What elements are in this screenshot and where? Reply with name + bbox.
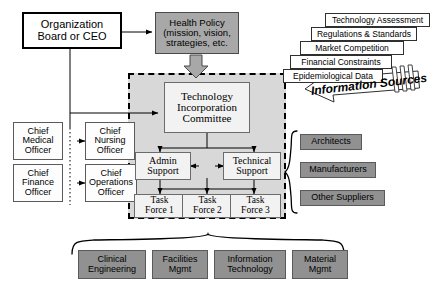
partner-box-architects[interactable]: Architects: [300, 134, 362, 150]
partner-label-manufacturers: Manufacturers: [309, 165, 367, 174]
org-board-line2: Board or CEO: [37, 30, 106, 42]
partner-label-other-suppliers: Other Suppliers: [311, 193, 374, 202]
info-source-label-1: Regulations & Standards: [317, 29, 411, 39]
technical-support-line2: Support: [236, 165, 268, 176]
exec-cfo-line3: Officer: [25, 187, 51, 197]
task-force-3-line2: Force 3: [241, 205, 270, 215]
technology-incorporation-committee-box[interactable]: Technology Incorporation Committee: [164, 82, 250, 133]
health-policy-line3: strategies, etc.: [166, 37, 228, 48]
department-0-line2: Engineering: [88, 264, 136, 274]
info-source-label-0: Technology Assessment: [332, 15, 423, 25]
department-box-material-mgmt[interactable]: Material Mgmt: [292, 250, 348, 279]
committee-line1: Technology: [181, 90, 233, 102]
exec-cmo-line3: Officer: [25, 145, 51, 155]
org-board-line1: Organization: [41, 18, 103, 30]
department-1-line2: Mgmt: [169, 264, 192, 274]
committee-line2: Incorporation: [177, 101, 237, 113]
task-force-2-box[interactable]: Task Force 2: [182, 194, 233, 218]
task-force-1-box[interactable]: Task Force 1: [134, 194, 185, 218]
committee-line3: Committee: [183, 112, 232, 124]
department-box-clinical-engineering[interactable]: Clinical Engineering: [78, 250, 146, 279]
info-source-financial-constraints[interactable]: Financial Constraints: [290, 55, 392, 69]
task-force-3-line1: Task: [247, 195, 265, 205]
exec-box-coo[interactable]: Chief Operations Officer: [85, 164, 137, 202]
exec-box-cmo[interactable]: Chief Medical Officer: [13, 122, 63, 160]
partner-label-architects: Architects: [311, 137, 351, 146]
info-source-market-competition[interactable]: Market Competition: [300, 41, 404, 55]
health-policy-box[interactable]: Health Policy (mission, vision, strategi…: [155, 12, 239, 54]
department-box-facilities-mgmt[interactable]: Facilities Mgmt: [152, 250, 208, 279]
info-source-label-2: Market Competition: [315, 43, 389, 53]
task-force-1-line1: Task: [151, 195, 169, 205]
admin-support-box[interactable]: Admin Support: [135, 152, 191, 180]
partner-box-manufacturers[interactable]: Manufacturers: [300, 162, 376, 178]
partner-box-other-suppliers[interactable]: Other Suppliers: [300, 190, 385, 206]
exec-box-cfo[interactable]: Chief Finance Officer: [13, 164, 63, 202]
exec-coo-line3: Officer: [98, 187, 124, 197]
department-3-line2: Mgmt: [309, 264, 332, 274]
task-force-2-line2: Force 2: [193, 205, 222, 215]
exec-cno-line3: Officer: [97, 145, 123, 155]
info-source-label-3: Financial Constraints: [301, 57, 380, 67]
task-force-1-line2: Force 1: [145, 205, 174, 215]
department-box-information-technology[interactable]: Information Technology: [214, 250, 286, 279]
info-source-technology-assessment[interactable]: Technology Assessment: [325, 13, 430, 27]
admin-support-line2: Support: [147, 165, 179, 176]
info-source-regulations-standards[interactable]: Regulations & Standards: [311, 27, 417, 41]
organization-board-box[interactable]: Organization Board or CEO: [22, 12, 122, 49]
exec-box-cno[interactable]: Chief Nursing Officer: [85, 122, 135, 160]
task-force-2-line1: Task: [199, 195, 217, 205]
technical-support-box[interactable]: Technical Support: [223, 152, 281, 180]
diagram-canvas: Organization Board or CEO Health Policy …: [0, 0, 430, 286]
task-force-3-box[interactable]: Task Force 3: [230, 194, 281, 218]
department-2-line2: Technology: [227, 264, 273, 274]
